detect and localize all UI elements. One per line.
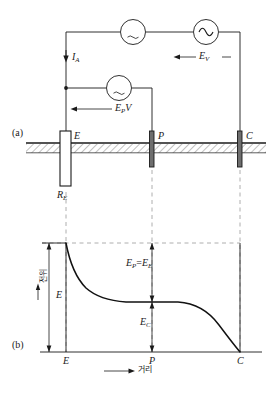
- y-axis-arrow-head: [36, 284, 40, 291]
- electrode-P-body: [150, 131, 155, 167]
- source-voltage-subscript: V: [205, 55, 209, 62]
- ev-arrow-head-left: [174, 55, 181, 60]
- panel-label-a: (a): [12, 128, 23, 138]
- ep-ee-label: EP=EE: [126, 258, 152, 270]
- ep-ee-subscript-2: E: [148, 262, 152, 269]
- ec-label: EC: [140, 317, 151, 329]
- electrode-E-body: [60, 131, 71, 186]
- electrode-label-E: E: [74, 131, 80, 141]
- earth-resistance-label: RE: [57, 190, 67, 202]
- figure-svg: [0, 0, 280, 396]
- electrode-C-body: [238, 131, 243, 167]
- probe-voltage-label: EPV: [115, 103, 131, 115]
- e-total-arrow: [47, 243, 52, 352]
- current-arrow: [63, 50, 68, 63]
- electrode-E: [60, 131, 71, 186]
- voltmeter-symbol: [107, 76, 132, 101]
- electrode-P: [150, 131, 155, 167]
- junction-dot-voltmeter: [64, 86, 68, 90]
- ep-ee-head-top: [150, 243, 155, 250]
- graph-y-axis-label: 전위: [37, 269, 48, 283]
- voltmeter-circle: [107, 76, 132, 101]
- ec-head-top: [150, 302, 155, 309]
- current-label-subscript: A: [75, 56, 79, 63]
- y-axis-arrow: [36, 284, 40, 301]
- epv-arrow-group: [71, 107, 113, 112]
- electrode-C: [238, 131, 243, 167]
- x-axis-arrow-head: [129, 369, 136, 374]
- ac-source-symbol: [194, 20, 219, 45]
- graph-tick-label-C: C: [237, 356, 244, 366]
- circuit-wires: [64, 32, 240, 138]
- current-label: IA: [72, 52, 80, 64]
- panel-label-b: (b): [12, 340, 24, 350]
- current-arrow-head: [63, 56, 68, 63]
- x-axis-arrow: [104, 369, 135, 374]
- projection-lines: [66, 170, 240, 352]
- ammeter-symbol: [121, 20, 146, 45]
- figure-container: (a) (b) IA EV EPV E P C RE E EP=EE EC E …: [0, 0, 280, 396]
- e-total-head-top: [47, 243, 52, 250]
- source-voltage-label: EV: [199, 51, 209, 63]
- ep-ee-head-bottom: [150, 296, 155, 303]
- ec-head-bottom: [150, 346, 155, 353]
- graph-tick-label-E: E: [63, 356, 69, 366]
- probe-voltage-unit: V: [125, 102, 131, 113]
- ep-ee-arrow: [150, 243, 155, 302]
- electrode-label-C: C: [246, 131, 253, 141]
- total-voltage-label: E: [56, 290, 62, 300]
- epv-arrow-head: [71, 107, 78, 112]
- earth-resistance-subscript: E: [63, 194, 67, 201]
- electrode-label-P: P: [158, 131, 164, 141]
- graph-x-axis-label: 거리: [138, 366, 152, 374]
- ammeter-circle: [121, 20, 146, 45]
- ec-subscript: C: [146, 321, 151, 328]
- e-total-head-bottom: [47, 346, 52, 353]
